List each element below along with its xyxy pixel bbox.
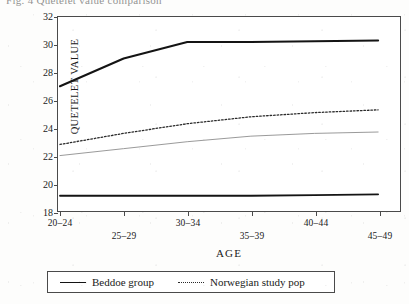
legend-label: Beddoe group bbox=[92, 276, 154, 288]
legend-label: Norwegian study pop bbox=[210, 276, 305, 288]
x-axis-tick-label: 20–24 bbox=[48, 219, 73, 229]
x-axis-tick-mark bbox=[188, 211, 189, 216]
y-axis-tick-label: 28 bbox=[43, 68, 53, 78]
chart-plot-area: QUETELET VALUE 1820222426283032 20–2425–… bbox=[57, 16, 401, 212]
y-axis-tick-label: 30 bbox=[43, 40, 53, 50]
chart-series-line-3 bbox=[60, 194, 378, 195]
x-axis-tick-mark bbox=[316, 211, 317, 216]
x-axis-tick-mark bbox=[124, 211, 125, 216]
x-axis-tick-label: 45–49 bbox=[368, 232, 393, 242]
legend-line-swatch-icon bbox=[178, 282, 204, 283]
x-axis-tick-label: 40–44 bbox=[304, 219, 329, 229]
figure-page: Fig. 4 Quetelet value comparison QUETELE… bbox=[0, 0, 409, 304]
y-axis-tick-label: 32 bbox=[43, 12, 53, 22]
x-axis-title: AGE bbox=[58, 247, 400, 259]
y-axis-tick-label: 20 bbox=[43, 180, 53, 190]
y-axis-tick-label: 22 bbox=[43, 152, 53, 162]
x-axis-tick-mark bbox=[252, 211, 253, 216]
y-axis-tick-label: 24 bbox=[43, 124, 53, 134]
y-axis-tick-mark bbox=[54, 213, 58, 214]
chart-series-canvas bbox=[58, 17, 400, 211]
x-axis-tick-label: 30–34 bbox=[176, 219, 201, 229]
chart-series-line-0 bbox=[60, 41, 378, 87]
legend-entry: Norwegian study pop bbox=[178, 276, 305, 288]
y-axis-tick-label: 18 bbox=[43, 208, 53, 218]
x-axis-tick-label: 35–39 bbox=[240, 232, 265, 242]
y-axis-tick-label: 26 bbox=[43, 96, 53, 106]
x-axis-tick-mark bbox=[380, 211, 381, 216]
legend-line-swatch-icon bbox=[60, 282, 86, 283]
x-axis-tick-mark bbox=[60, 211, 61, 216]
x-axis-tick-label: 25–29 bbox=[112, 232, 137, 242]
chart-legend: Beddoe groupNorwegian study pop bbox=[47, 271, 335, 293]
legend-entry: Beddoe group bbox=[60, 276, 154, 288]
figure-caption: Fig. 4 Quetelet value comparison bbox=[6, 0, 162, 6]
